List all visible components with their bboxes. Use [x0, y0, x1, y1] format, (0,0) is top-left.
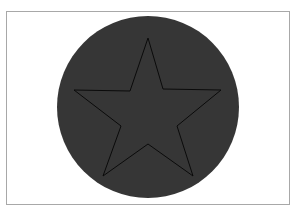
- circle-shape: [57, 16, 239, 198]
- circle-star-figure: [0, 0, 298, 213]
